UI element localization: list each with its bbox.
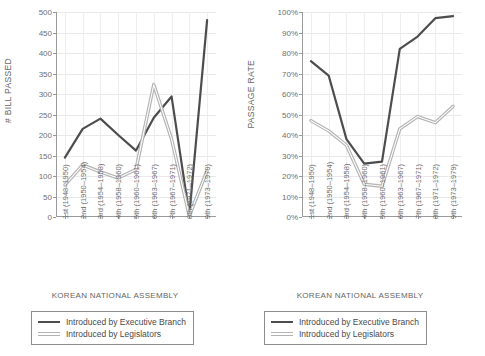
y-tick-label: 0% bbox=[286, 213, 298, 222]
y-tick-label: 10% bbox=[282, 192, 298, 201]
x-tick-label: 9th (1973–1979) bbox=[449, 164, 458, 219]
x-tick-label: 6th (1963–1967) bbox=[395, 164, 404, 219]
x-tick-label: 5th (1960–1961) bbox=[378, 164, 387, 219]
y-tick-mark bbox=[53, 217, 56, 218]
y-tick-label: 90% bbox=[282, 28, 298, 37]
y-axis-title-right: PASSAGE RATE bbox=[246, 60, 256, 129]
y-axis-title-left: # BILL PASSED bbox=[3, 58, 13, 123]
y-tick-label: 350 bbox=[39, 69, 52, 78]
y-tick-label: 40% bbox=[282, 131, 298, 140]
y-tick-label: 50% bbox=[282, 110, 298, 119]
x-tick-label: 3rd (1954–1958) bbox=[96, 164, 105, 219]
y-tick-label: 250 bbox=[39, 110, 52, 119]
x-tick-label: 2nd (1950–1954) bbox=[78, 162, 87, 219]
x-tick-label: 3rd (1954–1958) bbox=[342, 164, 351, 219]
y-tick-label: 80% bbox=[282, 49, 298, 58]
y-tick-label: 0 bbox=[48, 213, 52, 222]
x-tick-label: 4th (1958–1960) bbox=[360, 164, 369, 219]
legend-swatch-legislators-icon bbox=[38, 330, 60, 338]
x-tick-label: 7th (1967–1971) bbox=[167, 164, 176, 219]
legend-swatch-legislators-icon bbox=[271, 330, 293, 338]
y-tick-mark bbox=[299, 217, 302, 218]
x-axis-labels-right: 1st (1948–1950)2nd (1950–1954)3rd (1954–… bbox=[302, 219, 462, 287]
chart-panel-passage-rate: PASSAGE RATE 0%10%20%30%40%50%60%70%80%9… bbox=[243, 0, 485, 356]
x-axis-title-left: KOREAN NATIONAL ASSEMBLY bbox=[0, 291, 236, 300]
chart-panel-bill-passed: # BILL PASSED 05010015020025030035040045… bbox=[0, 0, 242, 356]
legend-item-legislators: Introduced by Legislators bbox=[38, 328, 186, 340]
x-tick-label: 6th (1963–1967) bbox=[149, 164, 158, 219]
line-executive-branch bbox=[311, 16, 453, 164]
legend-label-legislators: Introduced by Legislators bbox=[66, 329, 161, 339]
y-tick-label: 60% bbox=[282, 90, 298, 99]
y-tick-label: 300 bbox=[39, 90, 52, 99]
x-tick-label: 9th (1973–1979) bbox=[203, 164, 212, 219]
x-tick-label: 1st (1948–1950) bbox=[60, 164, 69, 219]
y-tick-label: 450 bbox=[39, 28, 52, 37]
legend-right: Introduced by Executive Branch Introduce… bbox=[264, 311, 427, 345]
x-tick-label: 2nd (1950–1954) bbox=[324, 162, 333, 219]
figure-root: # BILL PASSED 05010015020025030035040045… bbox=[0, 0, 485, 356]
x-tick-label: 1st (1948–1950) bbox=[306, 164, 315, 219]
y-tick-label: 400 bbox=[39, 49, 52, 58]
y-tick-label: 150 bbox=[39, 151, 52, 160]
y-tick-label: 100 bbox=[39, 172, 52, 181]
x-axis-labels-left: 1st (1948–1950)2nd (1950–1954)3rd (1954–… bbox=[56, 219, 216, 287]
figure-caption bbox=[0, 345, 485, 356]
x-tick-label: 7th (1967–1971) bbox=[413, 164, 422, 219]
legend-swatch-executive-icon bbox=[271, 318, 293, 326]
x-tick-label: 8th (1971–1972) bbox=[185, 164, 194, 219]
legend-item-executive: Introduced by Executive Branch bbox=[271, 316, 419, 328]
y-tick-label: 500 bbox=[39, 8, 52, 17]
x-tick-label: 4th (1958–1960) bbox=[114, 164, 123, 219]
legend-label-executive: Introduced by Executive Branch bbox=[299, 317, 419, 327]
y-tick-label: 20% bbox=[282, 172, 298, 181]
y-tick-label: 50 bbox=[43, 192, 52, 201]
y-tick-label: 70% bbox=[282, 69, 298, 78]
y-tick-label: 100% bbox=[278, 8, 298, 17]
y-tick-label: 30% bbox=[282, 151, 298, 160]
legend-item-legislators: Introduced by Legislators bbox=[271, 328, 419, 340]
legend-label-legislators: Introduced by Legislators bbox=[299, 329, 394, 339]
x-axis-title-right: KOREAN NATIONAL ASSEMBLY bbox=[239, 291, 481, 300]
legend-label-executive: Introduced by Executive Branch bbox=[66, 317, 186, 327]
x-tick-label: 5th (1960–1961) bbox=[132, 164, 141, 219]
legend-item-executive: Introduced by Executive Branch bbox=[38, 316, 186, 328]
legend-swatch-executive-icon bbox=[38, 318, 60, 326]
legend-left: Introduced by Executive Branch Introduce… bbox=[31, 311, 194, 345]
y-tick-label: 200 bbox=[39, 131, 52, 140]
x-tick-label: 8th (1971–1972) bbox=[431, 164, 440, 219]
